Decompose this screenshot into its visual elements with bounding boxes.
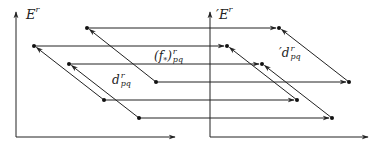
left-axis-label-base: E	[26, 7, 36, 22]
right-point-4	[347, 80, 351, 84]
left-axis-label-sup: r	[36, 5, 40, 14]
left-point-1	[85, 26, 89, 30]
left-points	[32, 26, 158, 120]
right-point-2	[225, 44, 229, 48]
left-point-6	[137, 116, 141, 120]
spectral-sequence-diagram	[0, 0, 380, 151]
right-differential-label: ′drpq	[279, 45, 301, 61]
left-differential-base: d	[112, 73, 120, 87]
left-point-5	[102, 98, 106, 102]
right-point-5	[295, 98, 299, 102]
right-axis-label-sup: r	[228, 5, 232, 14]
induced-map-base: (f	[154, 49, 163, 63]
induced-map-close: )	[167, 49, 172, 63]
left-differential-sub: pq	[121, 80, 131, 88]
right-axis-label-base: ′E	[216, 7, 228, 22]
right-point-3	[260, 62, 264, 66]
left-point-4	[154, 80, 158, 84]
right-differential-sub: pq	[290, 53, 300, 61]
left-differential-label: drpq	[112, 72, 131, 88]
induced-map-label: (f*)rpq	[154, 48, 183, 65]
left-differentials	[37, 30, 157, 119]
right-diff-arrow-3	[265, 66, 333, 119]
right-point-6	[330, 116, 334, 120]
left-point-3	[67, 62, 71, 66]
right-axis-label: ′Er	[216, 8, 232, 21]
induced-map-sub: pq	[173, 56, 183, 64]
right-differential-base: ′d	[279, 46, 289, 60]
left-axis-label: Er	[26, 8, 39, 21]
right-points	[225, 26, 351, 120]
left-point-2	[32, 44, 36, 48]
right-differentials	[230, 30, 350, 119]
right-point-1	[277, 26, 281, 30]
left-diff-arrow-2	[37, 48, 105, 101]
